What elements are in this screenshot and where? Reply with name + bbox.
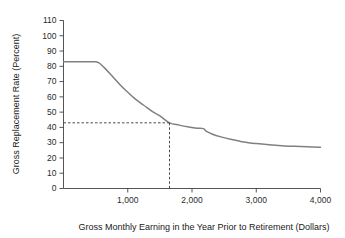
x-axis-title: Gross Monthly Earning in the Year Prior … <box>78 222 329 232</box>
x-axis: 1,0002,0003,0004,000 <box>64 189 332 205</box>
y-axis-tick-label: 0 <box>52 183 57 193</box>
data-series-group <box>64 62 321 148</box>
x-axis-tick-label: 3,000 <box>246 195 268 205</box>
y-axis: 0102030405060708090100110 <box>42 15 63 193</box>
x-axis-tick-label: 2,000 <box>181 195 203 205</box>
y-axis-tick-label: 40 <box>47 122 57 132</box>
y-axis-tick-label: 80 <box>47 61 57 71</box>
y-axis-title: Gross Replacement Rate (Percent) <box>11 34 21 175</box>
chart-plot-area: 0102030405060708090100110 1,0002,0003,00… <box>0 0 345 238</box>
series-line <box>64 62 321 148</box>
y-axis-tick-label: 70 <box>47 76 57 86</box>
y-axis-tick-label: 100 <box>42 31 56 41</box>
guide-lines-group <box>64 123 170 189</box>
y-axis-tick-label: 20 <box>47 153 57 163</box>
y-axis-tick-label: 50 <box>47 107 57 117</box>
y-axis-tick-label: 110 <box>43 15 57 25</box>
y-axis-tick-label: 30 <box>47 137 57 147</box>
y-axis-tick-label: 60 <box>47 92 57 102</box>
chart-figure: 0102030405060708090100110 1,0002,0003,00… <box>0 0 345 238</box>
x-axis-tick-label: 4,000 <box>310 195 332 205</box>
y-axis-tick-label: 90 <box>47 46 57 56</box>
y-axis-tick-label: 10 <box>47 168 57 178</box>
x-axis-tick-label: 1,000 <box>117 195 139 205</box>
